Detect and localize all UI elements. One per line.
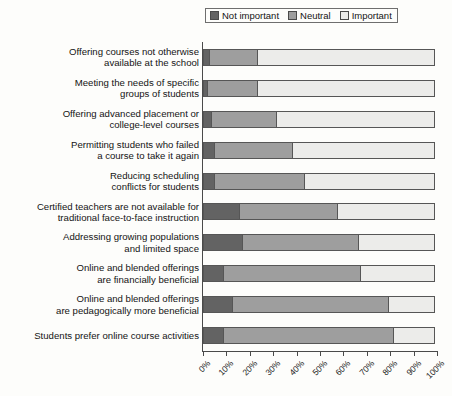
- legend-label: Neutral: [300, 11, 331, 21]
- x-axis-tick: [273, 351, 274, 356]
- x-axis-tick-label: 10%: [217, 359, 235, 377]
- x-axis-tick: [367, 351, 368, 356]
- stacked-bar[interactable]: [203, 265, 435, 282]
- plot-area: Offering courses not otherwise available…: [203, 42, 437, 351]
- bar-segment-important[interactable]: [276, 111, 435, 128]
- bar-segment-neutral[interactable]: [223, 327, 394, 344]
- x-axis-tick-label: 30%: [264, 359, 282, 377]
- chart-row: [203, 203, 437, 220]
- chart-legend: Not importantNeutralImportant: [205, 8, 398, 23]
- legend-label: Important: [352, 11, 392, 21]
- chart-row: [203, 49, 437, 66]
- stacked-bar[interactable]: [203, 80, 435, 97]
- chart-row: [203, 111, 437, 128]
- x-axis-tick: [203, 351, 204, 356]
- chart-row: [203, 173, 437, 190]
- bar-segment-important[interactable]: [360, 265, 435, 282]
- bar-segment-not-important[interactable]: [203, 296, 233, 313]
- bar-segment-important[interactable]: [304, 173, 435, 190]
- chart-row: [203, 142, 437, 159]
- stacked-bar[interactable]: [203, 234, 435, 251]
- bar-segment-neutral[interactable]: [211, 111, 277, 128]
- bar-segment-important[interactable]: [393, 327, 435, 344]
- legend-item-1[interactable]: Neutral: [288, 11, 331, 21]
- x-axis-tick: [320, 351, 321, 356]
- bar-segment-neutral[interactable]: [223, 265, 361, 282]
- bar-segment-important[interactable]: [388, 296, 435, 313]
- bar-segment-not-important[interactable]: [203, 265, 224, 282]
- x-axis-tick: [297, 351, 298, 356]
- x-axis-tick: [437, 351, 438, 356]
- bar-segment-important[interactable]: [292, 142, 435, 159]
- x-axis-tick-label: 60%: [334, 359, 352, 377]
- stacked-bar[interactable]: [203, 203, 435, 220]
- legend-item-0[interactable]: Not important: [210, 11, 279, 21]
- bar-segment-neutral[interactable]: [207, 80, 258, 97]
- bar-segment-neutral[interactable]: [214, 142, 294, 159]
- legend-swatch-icon: [340, 11, 349, 20]
- x-axis-tick: [343, 351, 344, 356]
- legend-label: Not important: [222, 11, 279, 21]
- category-label-4: Reducing scheduling conflicts for studen…: [0, 170, 199, 193]
- x-axis-tick-label: 0%: [197, 359, 212, 374]
- bar-segment-neutral[interactable]: [242, 234, 359, 251]
- legend-swatch-icon: [210, 11, 219, 20]
- stacked-bar[interactable]: [203, 173, 435, 190]
- chart-row: [203, 80, 437, 97]
- x-axis-tick-label: 40%: [288, 359, 306, 377]
- bar-segment-neutral[interactable]: [232, 296, 389, 313]
- bar-segment-important[interactable]: [337, 203, 435, 220]
- bar-segment-important[interactable]: [257, 80, 435, 97]
- x-axis-tick: [226, 351, 227, 356]
- stacked-bar[interactable]: [203, 296, 435, 313]
- x-axis-tick: [250, 351, 251, 356]
- chart-row: [203, 234, 437, 251]
- chart-row: [203, 265, 437, 282]
- category-label-9: Students prefer online course activities: [0, 330, 199, 341]
- x-axis-tick-label: 90%: [405, 359, 423, 377]
- bar-segment-neutral[interactable]: [209, 49, 258, 66]
- stacked-bar[interactable]: [203, 111, 435, 128]
- legend-swatch-icon: [288, 11, 297, 20]
- category-label-0: Offering courses not otherwise available…: [0, 46, 199, 69]
- bar-segment-not-important[interactable]: [203, 327, 224, 344]
- x-axis-tick-label: 50%: [311, 359, 329, 377]
- bar-segment-important[interactable]: [358, 234, 435, 251]
- category-label-5: Certified teachers are not available for…: [0, 201, 199, 224]
- stacked-bar[interactable]: [203, 142, 435, 159]
- x-axis-tick-label: 20%: [241, 359, 259, 377]
- category-label-2: Offering advanced placement or college-l…: [0, 108, 199, 131]
- bar-segment-important[interactable]: [257, 49, 435, 66]
- bar-segment-not-important[interactable]: [203, 203, 240, 220]
- bar-segment-neutral[interactable]: [214, 173, 305, 190]
- legend-item-2[interactable]: Important: [340, 11, 392, 21]
- chart-row: [203, 296, 437, 313]
- chart-row: [203, 327, 437, 344]
- category-label-7: Online and blended offerings are financi…: [0, 262, 199, 285]
- x-axis-tick: [414, 351, 415, 356]
- category-label-3: Permitting students who failed a course …: [0, 139, 199, 162]
- x-axis-tick: [390, 351, 391, 356]
- category-label-6: Addressing growing populations and limit…: [0, 231, 199, 254]
- x-axis-tick-label: 100%: [425, 359, 447, 381]
- category-label-1: Meeting the needs of specific groups of …: [0, 77, 199, 100]
- category-label-8: Online and blended offerings are pedagog…: [0, 293, 199, 316]
- x-axis-tick-label: 70%: [358, 359, 376, 377]
- stacked-bar[interactable]: [203, 49, 435, 66]
- stacked-bar-chart: Not importantNeutralImportant Offering c…: [0, 0, 452, 396]
- x-axis-tick-label: 80%: [381, 359, 399, 377]
- bar-segment-not-important[interactable]: [203, 234, 243, 251]
- stacked-bar[interactable]: [203, 327, 435, 344]
- bar-segment-neutral[interactable]: [239, 203, 337, 220]
